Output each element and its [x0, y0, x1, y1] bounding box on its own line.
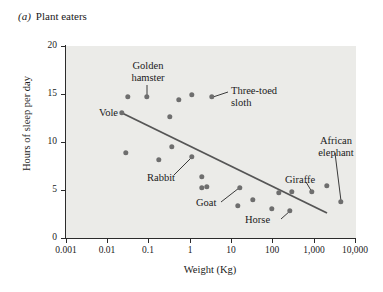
x-tick-1 — [190, 239, 191, 243]
y-axis-line — [65, 45, 66, 239]
x-tick-1000 — [314, 239, 315, 243]
page-title: Plant eaters — [36, 10, 87, 22]
annotation-horse: Horse — [245, 214, 283, 226]
y-tick-label-5: 5 — [31, 184, 57, 194]
y-tick-label-15: 15 — [31, 88, 57, 98]
y-tick-10 — [61, 142, 65, 143]
annotation-vole: Vole — [78, 107, 118, 119]
y-tick-0 — [61, 238, 65, 239]
y-tick-15 — [61, 94, 65, 95]
annotation-three-toed-sloth: Three-toed sloth — [231, 85, 293, 108]
panel-title: (a)Plant eaters — [18, 10, 87, 23]
x-tick-10 — [231, 239, 232, 243]
y-tick-20 — [61, 46, 65, 47]
x-axis-line — [65, 238, 356, 239]
figure-panel-a: (a)Plant eaters 20 15 10 5 0 Hours of sl… — [0, 0, 383, 292]
panel-letter: (a) — [18, 10, 31, 22]
x-tick-0.01 — [107, 239, 108, 243]
y-axis-label: Hours of sleep per day — [21, 49, 32, 199]
annotation-goat: Goat — [196, 197, 228, 209]
x-tick-100 — [272, 239, 273, 243]
x-tick-0.001 — [66, 239, 67, 243]
annotation-rabbit: Rabbit — [147, 172, 187, 184]
annotation-golden-hamster: Golden hamster — [115, 60, 181, 83]
y-tick-5 — [61, 190, 65, 191]
x-tick-10000 — [355, 239, 356, 243]
x-axis-label: Weight (Kg) — [120, 264, 300, 275]
y-tick-label-0: 0 — [31, 232, 57, 242]
x-tick-0.1 — [148, 239, 149, 243]
annotation-african-elephant: African elephant — [308, 135, 364, 158]
y-tick-label-20: 20 — [31, 40, 57, 50]
annotation-giraffe: Giraffe — [285, 174, 327, 186]
x-tick-label-10000: 10,000 — [329, 245, 381, 255]
y-tick-label-10: 10 — [31, 136, 57, 146]
